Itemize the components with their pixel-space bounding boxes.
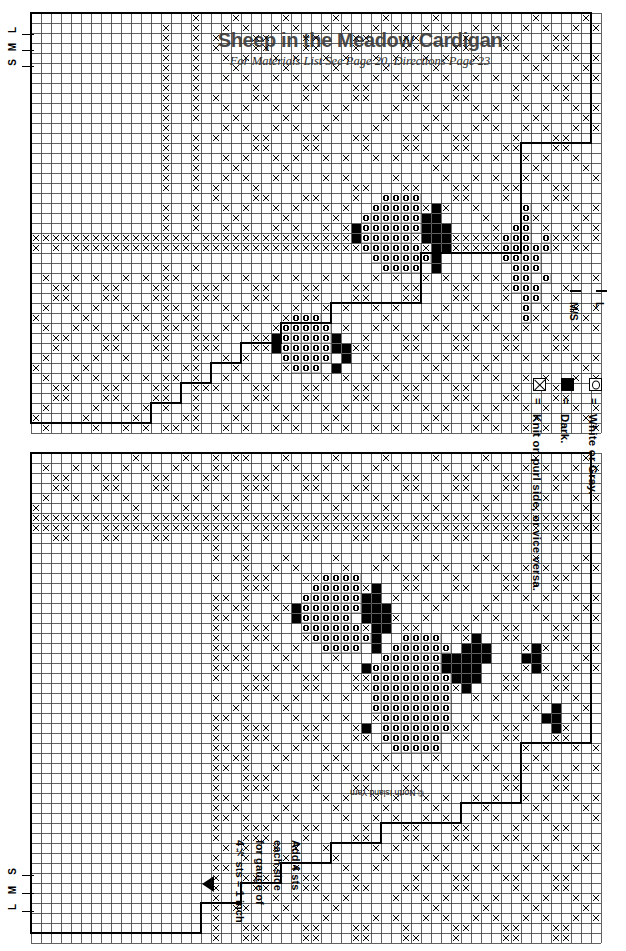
size-rule: [22, 911, 34, 912]
x-stitch-cell-icon: [533, 378, 546, 391]
gauge-note-line-1: Add 4 sts: [290, 840, 302, 890]
legend-equals-sign: =: [532, 398, 544, 404]
size-rule: [22, 893, 34, 894]
right-size-label: M/S: [568, 302, 580, 321]
gauge-note-line-4: 4½ sts = 1 inch: [234, 840, 246, 923]
legend: =White or Gray.=Dark.=Knit on purl side,…: [528, 378, 624, 628]
right-size-markers: LM/S: [556, 288, 626, 358]
gauge-note-line-3: for gauge of: [254, 840, 266, 905]
legend-label: Knit on purl side, or vice versa.: [531, 414, 543, 591]
legend-equals-sign: =: [588, 398, 600, 404]
gauge-note-line-2: each side: [272, 840, 284, 891]
size-rule: [22, 875, 34, 876]
pattern-page: Sheep in the Meadow Cardigan For Materia…: [0, 0, 626, 951]
size-dash-icon: [596, 290, 607, 292]
size-dash-icon: [570, 290, 581, 292]
legend-item-2: =Dark.: [558, 378, 580, 618]
legend-label: White or Gray.: [587, 414, 599, 495]
size-label-s: S: [8, 868, 18, 875]
copyright-text: © North Island Yarn: [350, 788, 424, 798]
legend-label: Dark.: [559, 414, 571, 444]
size-label-l: L: [8, 904, 18, 910]
gauge-note: Add 4 stseach sidefor gauge of4½ sts = 1…: [228, 840, 310, 951]
left-size-markers-bottom: SML: [0, 0, 60, 120]
legend-equals-sign: =: [560, 398, 572, 404]
right-size-label: L: [594, 302, 606, 308]
dark-filled-cell-icon: [561, 378, 574, 391]
open-circle-cell-icon: [589, 378, 602, 391]
triangle-left-icon: [202, 876, 214, 892]
size-label-m: M: [8, 886, 18, 894]
legend-item-3: =Knit on purl side, or vice versa.: [530, 378, 552, 618]
legend-item-1: =White or Gray.: [586, 378, 608, 618]
